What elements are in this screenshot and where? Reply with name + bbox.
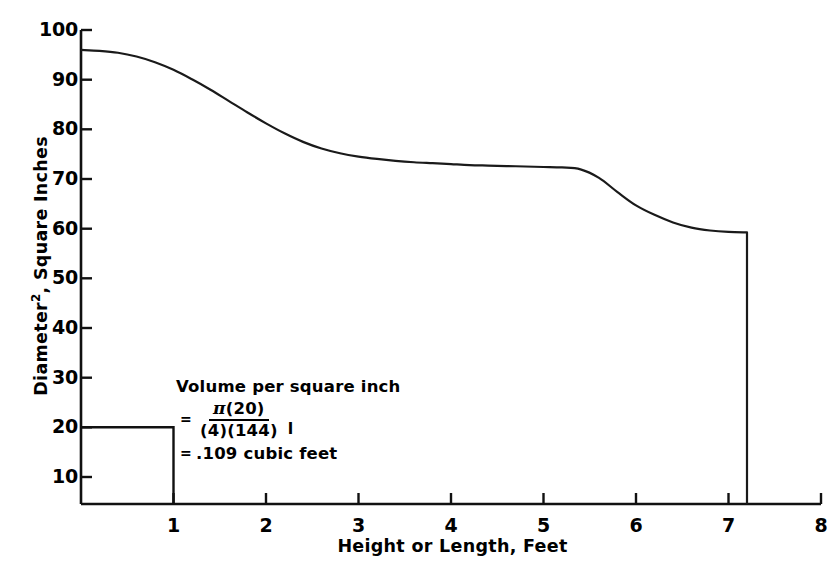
- y-axis-title-exponent: 2: [29, 293, 43, 302]
- equals-sign: =: [176, 446, 196, 461]
- equals-sign: =: [176, 412, 196, 427]
- length-variable: l: [288, 421, 294, 440]
- annotation-title: Volume per square inch: [176, 378, 401, 395]
- annotation-equation-row: = π(20) (4)(144) l: [176, 399, 401, 440]
- x-tick-label: 4: [436, 516, 466, 535]
- y-tick-label: 90: [32, 70, 78, 89]
- x-axis-title-text: Height or Length, Feet: [337, 536, 567, 556]
- annotation-result-row: = .109 cubic feet: [176, 445, 401, 462]
- x-tick-label: 2: [251, 516, 281, 535]
- x-tick-label: 5: [529, 516, 559, 535]
- volume-annotation: Volume per square inch = π(20) (4)(144) …: [176, 378, 401, 462]
- annotation-result: .109 cubic feet: [196, 445, 337, 462]
- y-tick-label: 10: [32, 467, 78, 486]
- y-axis-title-base: Diameter: [31, 302, 51, 396]
- pi-symbol: π: [213, 398, 226, 418]
- numerator-value: (20): [226, 399, 265, 418]
- y-axis-title: Diameter2, Square Inches: [29, 106, 51, 426]
- x-axis-title: Height or Length, Feet: [0, 536, 839, 556]
- fraction-denominator: (4)(144): [196, 421, 282, 440]
- fraction-numerator: π(20): [209, 399, 269, 421]
- x-tick-label: 3: [344, 516, 374, 535]
- x-tick-label: 7: [714, 516, 744, 535]
- x-tick-marks: [174, 493, 822, 504]
- chart-figure: 100 90 80 70 60 50 40 30 20 10 1 2 3 4 5…: [0, 0, 839, 571]
- x-tick-label: 8: [806, 516, 836, 535]
- reference-rectangle: [81, 427, 174, 504]
- y-tick-marks: [81, 30, 92, 477]
- fraction: π(20) (4)(144): [196, 399, 282, 440]
- x-tick-label: 6: [621, 516, 651, 535]
- y-tick-label: 100: [32, 20, 78, 39]
- x-tick-label: 1: [159, 516, 189, 535]
- y-axis-title-rest: , Square Inches: [31, 136, 51, 293]
- plot-area: [0, 0, 839, 571]
